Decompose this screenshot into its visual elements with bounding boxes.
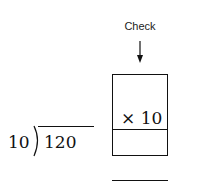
down-arrow-icon bbox=[135, 40, 145, 64]
box-divider bbox=[113, 129, 167, 130]
divisor: 10 bbox=[8, 132, 30, 152]
dividend: 120 bbox=[44, 132, 76, 152]
check-label: Check bbox=[120, 20, 160, 32]
multiplier-label: × 10 bbox=[121, 108, 162, 128]
vinculum-line bbox=[38, 126, 94, 127]
next-box-edge bbox=[112, 180, 168, 181]
check-box: × 10 bbox=[112, 74, 168, 156]
division-bracket-icon bbox=[33, 123, 41, 157]
